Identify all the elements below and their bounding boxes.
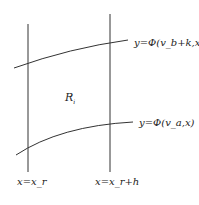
lower-curve-label: y=Φ(v_a,x) <box>139 118 194 128</box>
upper-curve-label: y=Φ(v_b+k,x) <box>134 38 199 48</box>
left-line-label: x=x_r <box>17 177 46 187</box>
diagram-canvas <box>0 0 199 205</box>
lower-curve <box>16 122 133 155</box>
right-line-label: x=x_r+h <box>95 177 139 187</box>
upper-curve <box>14 40 128 68</box>
region-label: Ri <box>65 92 75 105</box>
region-label-sub: i <box>73 98 75 105</box>
